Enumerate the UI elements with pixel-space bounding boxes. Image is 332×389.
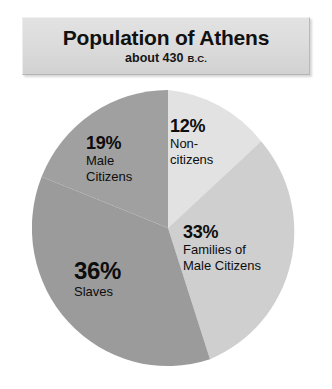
pie-chart-svg [32, 90, 304, 366]
pie-label-male-citizens-percent: 19% [86, 133, 132, 153]
chart-title-banner: Population of Athens about 430 B.C. [22, 17, 310, 75]
pie-label-families-of-male-citizens: 33% Families of Male Citizens [183, 222, 261, 273]
pie-label-non-citizens: 12% Non- citizens [170, 116, 213, 167]
pie-label-slaves-line1: Slaves [74, 285, 121, 300]
pie-label-non-citizens-percent: 12% [170, 116, 213, 136]
pie-label-male-citizens-line1: Male [86, 154, 132, 169]
page-title: Population of Athens [63, 27, 269, 49]
pie-label-families-line2: Male Citizens [183, 259, 261, 274]
pie-label-families-percent: 33% [183, 222, 261, 242]
pie-label-male-citizens-line2: Citizens [86, 170, 132, 185]
pie-label-slaves-percent: 36% [74, 258, 121, 285]
pie-label-male-citizens: 19% Male Citizens [86, 133, 132, 184]
subtitle-era: B.C. [187, 54, 206, 64]
subtitle-text: about 430 [125, 52, 183, 65]
pie-label-slaves: 36% Slaves [74, 258, 121, 299]
pie-label-non-citizens-line1: Non- [170, 137, 213, 152]
pie-chart [32, 90, 304, 366]
pie-label-non-citizens-line2: citizens [170, 153, 213, 168]
chart-subtitle: about 430 B.C. [125, 52, 207, 65]
pie-label-families-line1: Families of [183, 243, 261, 258]
